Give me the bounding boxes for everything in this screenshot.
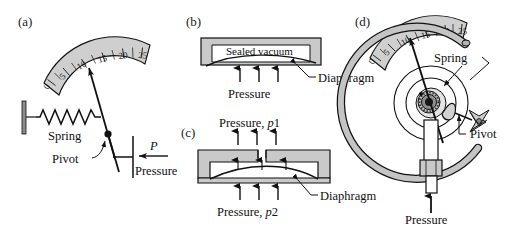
panel-d-label: (d) — [355, 14, 370, 29]
figure-canvas: (a) 0 5 10 — [0, 0, 525, 227]
panel-c-pressure-top-label: Pressure,p1 — [219, 116, 280, 130]
panel-a-pivot-label: Pivot — [52, 152, 79, 166]
dial-tick-20: 20 — [118, 50, 129, 61]
panel-a-pressure-symbol: P — [149, 139, 158, 153]
panel-c-diaphragm-label: Diaphragm — [320, 189, 377, 203]
panel-d-pressure-label: Pressure — [405, 213, 448, 227]
dial-tick-25: 25 — [138, 50, 148, 60]
panel-d-spring-label: Spring — [434, 51, 468, 65]
panel-c-pressure-bottom-label: Pressure,p2 — [217, 205, 278, 219]
panel-b-chamber-label: Sealed vacuum — [226, 45, 293, 57]
panel-a-pressure-label: Pressure — [135, 164, 178, 178]
panel-c-label: (c) — [181, 125, 195, 140]
panel-a-spring-label: Spring — [48, 129, 82, 143]
panel-a-label: (a) — [18, 14, 32, 29]
panel-b-label: (b) — [186, 14, 201, 29]
panel-b-pressure-label: Pressure — [228, 87, 271, 101]
panel-d-pivot-label: Pivot — [470, 127, 497, 141]
panel-a-pivot-dot — [104, 130, 111, 137]
pressure-devices-figure: (a) 0 5 10 — [0, 0, 525, 227]
